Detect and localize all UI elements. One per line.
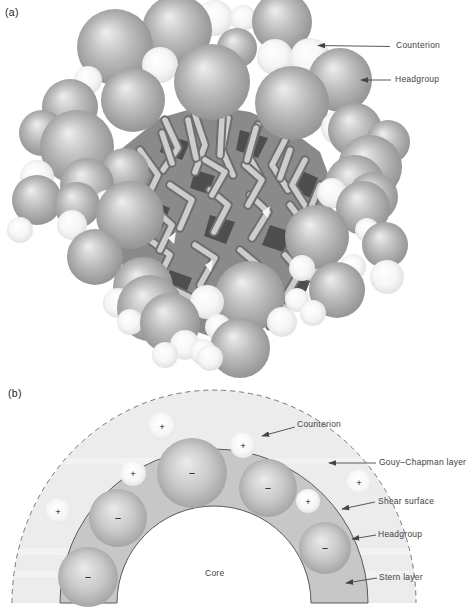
panel-a-tag: (a) (5, 6, 19, 18)
panel-b-gouy-chapman-layer-label: Gouy–Chapman layer (379, 458, 466, 467)
counterion-sphere (7, 217, 33, 243)
headgroup-sphere (101, 68, 165, 132)
negative-charge-sign: − (85, 571, 91, 583)
panel-b-headgroup-label: Headgroup (378, 530, 422, 539)
positive-charge-sign: + (356, 477, 362, 488)
negative-charge-sign: − (189, 467, 195, 479)
headgroup-sphere (210, 318, 270, 378)
headgroup-sphere (174, 44, 250, 120)
panel-b-stern-layer-label: Stern layer (379, 573, 423, 582)
counterion-sphere (117, 309, 143, 335)
counterion-sphere (267, 307, 297, 337)
micelle-figure-page: −−−−−++++++ (a) Counterion Headgroup (b)… (0, 0, 469, 616)
headgroup-sphere (255, 66, 329, 140)
label-arrow (318, 46, 390, 47)
negative-charge-sign: − (115, 512, 121, 524)
panel-b-shear-surface-label: Shear surface (378, 497, 434, 506)
positive-charge-sign: + (130, 468, 136, 479)
headgroup-sphere (67, 229, 123, 285)
panel-a-counterion-label: Counterion (396, 41, 440, 50)
panel-b-counterion-label: Counterion (297, 420, 341, 429)
panel-a-micelle (7, 0, 410, 378)
counterion-sphere (230, 5, 256, 31)
counterion-sphere (289, 255, 315, 281)
tail-chain-tube (220, 118, 222, 155)
counterion-sphere (300, 300, 326, 326)
panel-a-headgroup-label: Headgroup (395, 75, 439, 84)
counterion-sphere (152, 342, 178, 368)
negative-charge-sign: − (322, 542, 328, 554)
positive-charge-sign: + (159, 421, 165, 432)
counterion-sphere (370, 260, 404, 294)
negative-charge-sign: − (265, 482, 271, 494)
panel-b-tag: (b) (8, 387, 22, 399)
positive-charge-sign: + (55, 506, 61, 517)
panel-b-core-label: Core (205, 569, 224, 578)
counterion-sphere (197, 345, 223, 371)
positive-charge-sign: + (240, 440, 246, 451)
positive-charge-sign: + (305, 496, 311, 507)
micelle-figure-svg: −−−−−++++++ (0, 0, 469, 616)
